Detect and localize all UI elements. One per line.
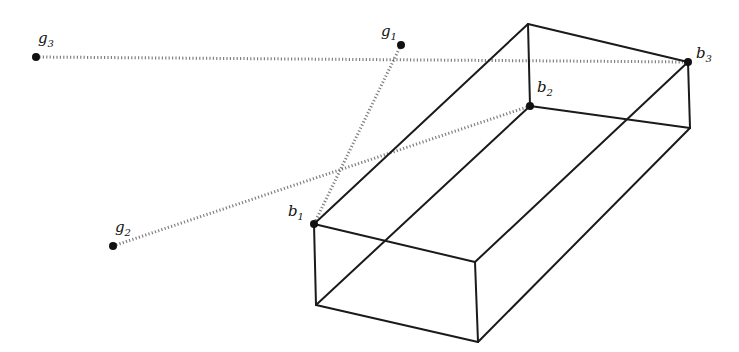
point-b1 — [310, 220, 318, 228]
label-b3: b3 — [696, 44, 712, 64]
box-edge-bottom_front_left-bottom_back_left — [316, 106, 530, 305]
box-edge-bottom_front_right-bottom_front_left — [316, 305, 478, 342]
box-edge-bottom_back_left-bottom_back_right — [530, 106, 690, 128]
point-g2 — [109, 242, 117, 250]
diagram-canvas: g1g2g3b1b2b3 — [0, 0, 739, 352]
point-g1 — [397, 41, 405, 49]
box-edge-top_front_right-top_front_left — [314, 224, 475, 262]
box-edge-top_front_right-bottom_front_right — [475, 262, 478, 342]
point-labels: g1g2g3b1b2b3 — [38, 22, 712, 238]
box-edge-top_back_left-top_back_right — [528, 24, 688, 62]
label-g3: g3 — [38, 29, 54, 49]
box-edge-top_front_left-top_back_left — [314, 24, 528, 224]
point-g3 — [32, 53, 40, 61]
box-edge-top_front_left-bottom_front_left — [314, 224, 316, 305]
label-b1: b1 — [288, 202, 304, 222]
box-edge-top_back_right-bottom_back_right — [688, 62, 690, 128]
box-edge-top_back_left-bottom_back_left — [528, 24, 530, 106]
label-g2: g2 — [115, 218, 131, 238]
correspondence-line-g3-b3 — [36, 57, 688, 62]
label-g1: g1 — [381, 22, 397, 42]
points — [32, 41, 692, 250]
point-b2 — [526, 102, 534, 110]
point-b3 — [684, 58, 692, 66]
box-wireframe — [314, 24, 690, 342]
correspondence-lines — [36, 45, 688, 246]
correspondence-line-g1-b1 — [314, 45, 401, 224]
label-b2: b2 — [537, 78, 553, 98]
